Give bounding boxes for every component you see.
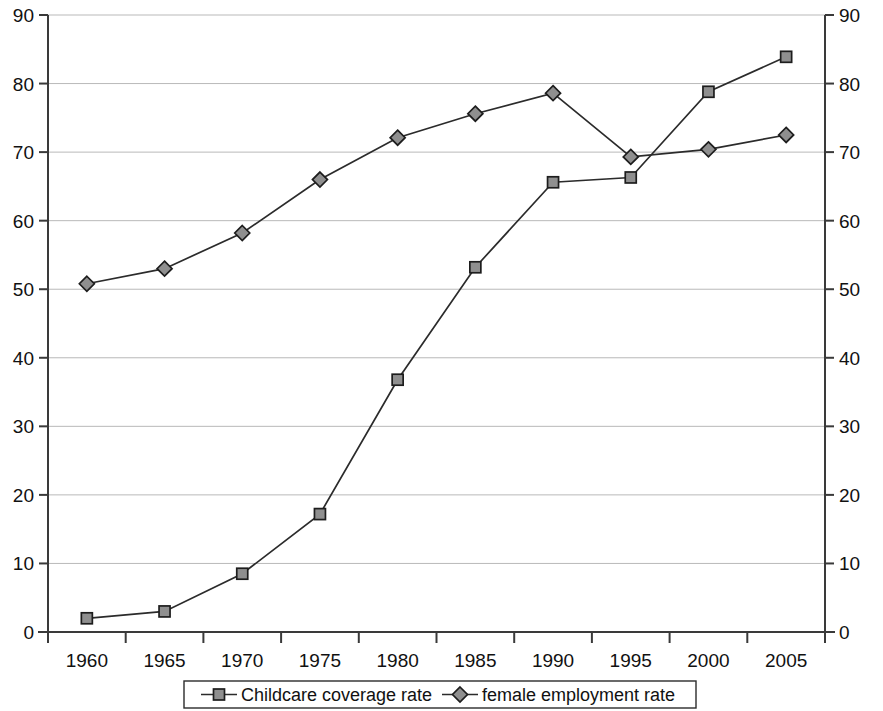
y-axis-left-label-30: 30 <box>13 416 34 437</box>
line-chart: 0102030405060708090 0102030405060708090 … <box>0 0 883 711</box>
y-axis-right-labels: 0102030405060708090 <box>839 5 860 643</box>
y-axis-left-label-70: 70 <box>13 142 34 163</box>
data-point-s1-2000 <box>703 86 714 97</box>
data-point-s1-1980 <box>392 374 403 385</box>
y-axis-left-label-50: 50 <box>13 279 34 300</box>
x-axis-ticks <box>48 632 825 643</box>
y-axis-left-label-0: 0 <box>23 622 34 643</box>
y-axis-right-label-60: 60 <box>839 211 860 232</box>
data-point-s1-1990 <box>548 177 559 188</box>
data-point-s2-2005 <box>779 127 794 142</box>
data-point-s1-1960 <box>81 613 92 624</box>
x-axis-label-1975: 1975 <box>299 650 341 671</box>
y-axis-left-label-10: 10 <box>13 553 34 574</box>
x-axis-label-1995: 1995 <box>610 650 652 671</box>
y-axis-right-label-90: 90 <box>839 5 860 26</box>
x-axis-label-2000: 2000 <box>687 650 729 671</box>
y-axis-right-label-10: 10 <box>839 553 860 574</box>
data-point-s2-1980 <box>390 130 405 145</box>
data-point-s1-1970 <box>237 568 248 579</box>
y-axis-right-label-70: 70 <box>839 142 860 163</box>
data-point-s2-1970 <box>235 226 250 241</box>
y-axis-left-label-80: 80 <box>13 74 34 95</box>
chart-legend: Childcare coverage ratefemale employment… <box>184 681 696 708</box>
data-point-s1-2005 <box>781 51 792 62</box>
y-axis-left-label-40: 40 <box>13 348 34 369</box>
x-axis-label-2005: 2005 <box>765 650 807 671</box>
y-axis-left-labels: 0102030405060708090 <box>13 5 34 643</box>
x-axis-label-1980: 1980 <box>377 650 419 671</box>
y-axis-right-label-40: 40 <box>839 348 860 369</box>
legend-item-2[interactable]: female employment rate <box>442 685 675 705</box>
data-point-s2-1975 <box>312 172 327 187</box>
series-line-1 <box>87 57 786 618</box>
data-point-s1-1995 <box>625 172 636 183</box>
x-axis-labels: 1960196519701975198019851990199520002005 <box>66 650 808 671</box>
data-point-s1-1965 <box>159 606 170 617</box>
y-axis-right-label-50: 50 <box>839 279 860 300</box>
x-axis-label-1985: 1985 <box>454 650 496 671</box>
x-axis-label-1970: 1970 <box>221 650 263 671</box>
data-point-s1-1985 <box>470 262 481 273</box>
y-axis-right-label-80: 80 <box>839 74 860 95</box>
data-point-s2-2000 <box>701 142 716 157</box>
x-axis-label-1990: 1990 <box>532 650 574 671</box>
y-axis-right-label-0: 0 <box>839 622 850 643</box>
data-point-s2-1985 <box>468 106 483 121</box>
x-axis-label-1965: 1965 <box>143 650 185 671</box>
series-layer <box>79 51 793 623</box>
series-1 <box>81 51 791 623</box>
y-axis-right-label-20: 20 <box>839 485 860 506</box>
legend-label-2: female employment rate <box>482 685 675 705</box>
square-marker-icon <box>214 689 225 700</box>
chart-canvas: 0102030405060708090 0102030405060708090 … <box>0 0 883 711</box>
legend-label-1: Childcare coverage rate <box>241 685 432 705</box>
y-axis-left-label-90: 90 <box>13 5 34 26</box>
y-axis-right-label-30: 30 <box>839 416 860 437</box>
diamond-marker-icon <box>453 687 468 702</box>
y-axis-left-label-20: 20 <box>13 485 34 506</box>
data-point-s1-1975 <box>314 509 325 520</box>
data-point-s2-1965 <box>157 261 172 276</box>
x-axis-label-1960: 1960 <box>66 650 108 671</box>
y-axis-left-label-60: 60 <box>13 211 34 232</box>
legend-item-1[interactable]: Childcare coverage rate <box>201 685 432 705</box>
